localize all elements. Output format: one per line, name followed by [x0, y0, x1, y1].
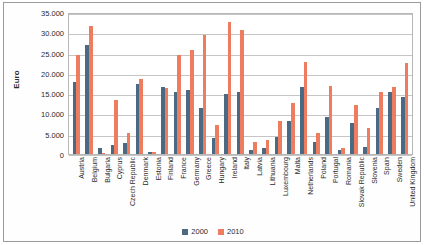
x-label-cell: Greece [196, 156, 209, 228]
bar-group [297, 14, 310, 154]
bar-group [310, 14, 323, 154]
bar-group [70, 14, 83, 154]
bar-estonia-2010 [152, 152, 156, 154]
y-axis-tick-6: 30.000 [26, 29, 64, 38]
x-label-cell: United Kingdom [399, 156, 412, 228]
bar-group [146, 14, 159, 154]
x-label-cell: Cyprus [107, 156, 120, 228]
x-label-cell: Malta [285, 156, 298, 228]
x-label-cell: Italy [234, 156, 247, 228]
x-label-cell: Hungary [209, 156, 222, 228]
bar-italy-2010 [240, 30, 244, 154]
bar-netherlands-2010 [304, 62, 308, 154]
x-axis-label-united-kingdom: United Kingdom [409, 157, 416, 207]
x-label-cell: Latvia [247, 156, 260, 228]
bar-ireland-2010 [228, 22, 232, 154]
bar-group [335, 14, 348, 154]
bar-group [398, 14, 411, 154]
bar-group [95, 14, 108, 154]
x-label-cell: Netherlands [298, 156, 311, 228]
bar-group [360, 14, 373, 154]
bar-group [209, 14, 222, 154]
x-label-cell: Germany [183, 156, 196, 228]
legend-swatch-icon-2010 [218, 229, 224, 235]
bar-group [222, 14, 235, 154]
bar-group [234, 14, 247, 154]
x-label-cell: Slovak Republic [348, 156, 361, 228]
bar-denmark-2010 [139, 79, 143, 154]
bar-cyprus-2010 [114, 100, 118, 154]
bar-group [386, 14, 399, 154]
bar-group [171, 14, 184, 154]
x-label-cell: Poland [310, 156, 323, 228]
bar-group [247, 14, 260, 154]
x-label-cell: France [171, 156, 184, 228]
x-label-cell: Belgium [82, 156, 95, 228]
bar-belgium-2010 [89, 26, 93, 154]
bar-poland-2010 [316, 133, 320, 155]
bar-finland-2010 [165, 88, 169, 154]
bar-malta-2010 [291, 103, 295, 154]
x-label-cell: Estonia [145, 156, 158, 228]
legend-swatch-icon-2000 [182, 229, 188, 235]
bar-united-kingdom-2010 [405, 63, 409, 154]
x-label-cell: Ireland [221, 156, 234, 228]
bar-group [272, 14, 285, 154]
bar-lithuania-2010 [266, 140, 270, 154]
y-axis-tick-4: 20.000 [26, 69, 64, 78]
bar-groups [69, 14, 412, 154]
x-axis-category-labels: AustriaBelgiumBulgariaCyprusCzech Republ… [68, 156, 413, 228]
x-label-cell: Finland [158, 156, 171, 228]
x-label-cell: Romania [336, 156, 349, 228]
bar-group [259, 14, 272, 154]
bar-group [108, 14, 121, 154]
y-axis-tick-labels: 05.00010.00015.00020.00025.00030.00035.0… [26, 13, 64, 155]
x-label-cell: Luxembourg [272, 156, 285, 228]
chart-screenshot: Euro 05.00010.00015.00020.00025.00030.00… [0, 0, 424, 245]
bar-group [83, 14, 96, 154]
legend-label-2010: 2010 [227, 227, 244, 236]
bar-greece-2010 [203, 35, 207, 154]
bar-slovenia-2010 [367, 128, 371, 154]
bar-luxembourg-2010 [278, 121, 282, 154]
legend-item-2010[interactable]: 2010 [218, 227, 244, 236]
chart-frame: Euro 05.00010.00015.00020.00025.00030.00… [3, 2, 421, 242]
bar-group [323, 14, 336, 154]
y-axis-title: Euro [12, 50, 21, 110]
bar-sweden-2010 [392, 87, 396, 154]
y-axis-tick-0: 0 [26, 151, 64, 160]
x-label-cell: Portugal [323, 156, 336, 228]
x-label-cell: Sweden [387, 156, 400, 228]
bar-slovak-republic-2010 [354, 105, 358, 154]
bar-group [196, 14, 209, 154]
bar-group [121, 14, 134, 154]
bar-austria-2010 [76, 55, 80, 154]
bar-spain-2010 [379, 92, 383, 154]
x-label-cell: Austria [69, 156, 82, 228]
bar-hungary-2010 [215, 125, 219, 154]
y-axis-tick-3: 15.000 [26, 90, 64, 99]
bar-latvia-2010 [253, 142, 257, 154]
x-label-cell: Denmark [133, 156, 146, 228]
y-axis-tick-2: 10.000 [26, 110, 64, 119]
x-label-cell: Lithuania [260, 156, 273, 228]
bar-group [133, 14, 146, 154]
bar-group [184, 14, 197, 154]
bar-czech-republic-2010 [127, 133, 131, 154]
legend-label-2000: 2000 [191, 227, 208, 236]
bar-romania-2010 [341, 148, 345, 154]
bar-group [285, 14, 298, 154]
legend-item-2000[interactable]: 2000 [182, 227, 208, 236]
bar-germany-2010 [190, 50, 194, 154]
x-label-cell: Spain [374, 156, 387, 228]
x-label-cell: Bulgaria [94, 156, 107, 228]
chart-legend: 2000 2010 [4, 227, 422, 236]
bar-bulgaria-2010 [102, 153, 106, 154]
bar-group [158, 14, 171, 154]
y-axis-tick-5: 25.000 [26, 49, 64, 58]
bar-france-2010 [177, 55, 181, 154]
plot-area [68, 13, 413, 155]
y-axis-tick-7: 35.000 [26, 9, 64, 18]
bar-portugal-2010 [329, 86, 333, 154]
bar-group [373, 14, 386, 154]
